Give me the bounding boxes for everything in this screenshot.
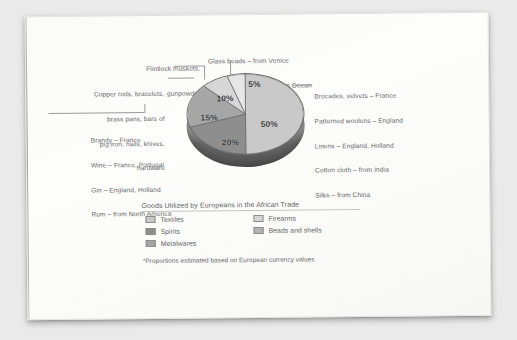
scanned-page: Glass beads – from Venice Cowrie shells …	[25, 12, 492, 320]
annotation-textiles-line4: Cotton cloth – from India	[315, 166, 403, 175]
annotation-spirits-line1: Brandy – France	[91, 136, 171, 145]
legend-item-metalwares[interactable]: Metalwares	[146, 240, 197, 247]
legend-item-firearms[interactable]: Firearms	[253, 215, 296, 222]
legend-item-beads-and-shells[interactable]: Beads and shells	[254, 226, 322, 234]
legend-title: Goods Utilized by Europeans in the Afric…	[141, 200, 360, 212]
footnote-text: Proportions estimated based on European …	[145, 255, 314, 264]
legend-swatch-metalwares	[146, 240, 156, 247]
legend-label-firearms: Firearms	[268, 215, 296, 222]
annotation-spirits-line3: Gin – England, Holland	[91, 185, 171, 194]
legend-label-spirits: Spirits	[161, 228, 181, 235]
figure-container: Glass beads – from Venice Cowrie shells …	[26, 13, 491, 319]
pie-label-textiles: 50%	[261, 119, 278, 129]
legend-item-textiles[interactable]: Textiles	[145, 216, 183, 223]
legend-item-spirits[interactable]: Spirits	[146, 228, 181, 235]
annotation-spirits-line2: Wine – France, Portugal	[91, 161, 171, 170]
annotation-textiles-line2: Patterned woolens – England	[315, 117, 403, 126]
pie-label-metalwares: 15%	[200, 112, 217, 122]
legend-row-3: Metalwares	[142, 238, 374, 252]
legend-footnote: *Proportions estimated based on European…	[142, 255, 374, 264]
pie-label-spirits: 20%	[222, 137, 239, 147]
legend-label-textiles: Textiles	[160, 216, 183, 223]
legend-label-metalwares: Metalwares	[161, 240, 197, 247]
annotation-beads-line1: Glass beads – from Venice	[208, 57, 312, 66]
annotation-textiles-line5: Silks – from China	[315, 190, 403, 199]
annotation-textiles-line1: Brocades, velvets – France	[314, 92, 402, 101]
legend-swatch-textiles	[145, 216, 155, 223]
legend: Goods Utilized by Europeans in the Afric…	[141, 200, 374, 264]
pie-chart: 50% 20% 15% 10% 5%	[186, 73, 309, 182]
legend-swatch-firearms	[253, 215, 263, 222]
legend-label-beads-and-shells: Beads and shells	[269, 226, 322, 234]
screenshot-stage: Glass beads – from Venice Cowrie shells …	[0, 0, 517, 340]
pie-label-firearms: 10%	[216, 93, 233, 103]
legend-swatch-beads-and-shells	[254, 227, 264, 234]
leader-line-spirits-v	[144, 104, 145, 113]
annotation-textiles-line3: Linens – England, Holland	[315, 141, 403, 150]
annotation-metalwares-line1: Copper rods, bracelets,	[46, 90, 164, 99]
pie-label-beads-and-shells: 5%	[248, 79, 261, 89]
legend-swatch-spirits	[146, 228, 156, 235]
annotation-textiles: Brocades, velvets – France Patterned woo…	[314, 76, 404, 216]
